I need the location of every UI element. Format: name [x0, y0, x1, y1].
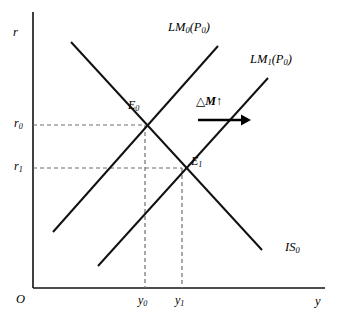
is-label-sub: 0: [295, 245, 299, 255]
lm0-curve-line: [53, 46, 218, 232]
lm0-label-paren-close: ): [206, 20, 210, 34]
e0-label-sub: 0: [135, 104, 139, 113]
is-curve-line: [71, 42, 262, 250]
tick-label-r1: r1: [14, 160, 23, 174]
is-curve-label: IS0: [285, 241, 300, 255]
diagram-canvas: [0, 0, 340, 324]
lm1-label-main: LM: [250, 52, 267, 66]
money-supply-shock-label: △M↑: [196, 95, 222, 107]
is-lm-figure: r y O r0 r1 y0 y1 LM0(P0) LM1(P0) IS0 E0…: [0, 0, 340, 324]
money-variable: M: [205, 94, 216, 108]
shift-arrow: [198, 115, 251, 126]
interest-rate-axis-label: r: [13, 26, 18, 39]
origin-label: O: [16, 293, 25, 306]
equilibrium-label-e1: E1: [191, 155, 202, 169]
delta-icon: △: [196, 94, 205, 108]
tick-y1-sub: 1: [180, 299, 184, 308]
equilibrium-label-e0: E0: [128, 99, 139, 113]
e1-label-sub: 1: [198, 160, 202, 169]
output-axis-label: y: [315, 295, 321, 308]
lm0-curve-label: LM0(P0): [168, 21, 210, 35]
tick-label-y0: y0: [138, 294, 147, 308]
lm1-label-paren-close: ): [288, 52, 292, 66]
lm1-curve-label: LM1(P0): [250, 53, 292, 67]
is-label-main: IS: [285, 240, 295, 254]
lm0-label-main: LM: [168, 20, 185, 34]
lm1-curve-line: [98, 78, 268, 266]
up-arrow-icon: ↑: [216, 94, 222, 108]
tick-label-y1: y1: [175, 294, 184, 308]
tick-y0-sub: 0: [143, 299, 147, 308]
tick-label-r0: r0: [14, 117, 23, 131]
tick-r1-sub: 1: [19, 165, 23, 174]
tick-r0-sub: 0: [19, 122, 23, 131]
